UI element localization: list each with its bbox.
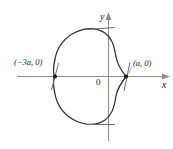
left-intercept-label: (−3a, 0): [14, 58, 42, 67]
y-axis-label: y: [100, 12, 104, 22]
point-dot-cusp: [124, 74, 128, 78]
cardioid-figure: y x 0 (−3a, 0) (a, 0): [0, 0, 173, 149]
origin-label: 0: [96, 78, 101, 87]
plot-canvas: [0, 0, 173, 149]
point-dot-left-intercept: [53, 74, 57, 78]
y-axis-arrow: [106, 12, 112, 20]
cusp-point-label: (a, 0): [133, 59, 151, 68]
x-axis-label: x: [162, 80, 166, 90]
